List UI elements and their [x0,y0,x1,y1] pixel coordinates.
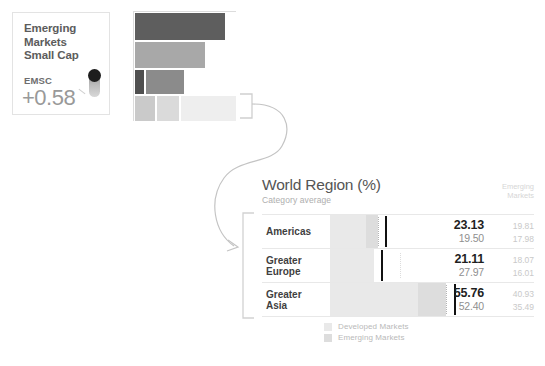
fund-gauge-tick-icon [79,89,86,95]
value-emerging-primary: 18.07 [484,254,534,266]
region-label-line-2: Europe [266,266,300,277]
bar-developed-markets [330,249,374,282]
region-rows-container: Americas23.1319.8119.5017.98GreaterEurop… [262,214,534,317]
treemap-cell [134,69,145,95]
legend-swatch-icon [324,334,332,342]
value-secondary: 27.97 [422,266,484,278]
treemap-cell [185,69,237,95]
value-emerging-secondary: 35.49 [484,301,534,313]
region-label-line-1: Greater [266,254,302,265]
flow-arrowhead-icon [227,240,238,251]
value-emerging-primary: 40.93 [484,288,534,300]
region-label: GreaterEurope [266,254,324,277]
legend-label: Emerging Markets [338,333,405,342]
bar-emerging-markets [366,215,378,248]
value-secondary: 52.40 [422,300,484,312]
source-bracket [240,94,252,118]
fund-summary-card[interactable]: Emerging Markets Small Cap EMSC +0.58 [12,12,110,115]
emerging-markets-column-header-line-2: Markets [486,191,534,200]
treemap-cell [226,12,237,41]
world-region-panel: World Region (%) Category average Emergi… [262,176,534,341]
treemap-cell [145,69,185,95]
chart-legend: Developed MarketsEmerging Markets [324,321,409,343]
emerging-markets-column-header-line-1: Emerging [486,182,534,191]
legend-item[interactable]: Emerging Markets [324,332,409,343]
fund-change-value: +0.58 [22,85,75,111]
region-label: GreaterAsia [266,288,324,311]
treemap-cell [156,95,180,122]
treemap-cell [134,41,206,69]
value-secondary: 19.50 [422,232,484,244]
region-label: Americas [266,226,324,238]
region-values: 21.1118.0727.9716.01 [416,253,534,279]
fund-card-title-line-3: Small Cap [24,49,79,61]
table-row[interactable]: Americas23.1319.8119.5017.98 [262,215,534,249]
table-row[interactable]: GreaterEurope21.1118.0727.9716.01 [262,249,534,283]
value-emerging-secondary: 16.01 [484,267,534,279]
bar-value-marker [381,250,383,281]
fund-card-title-line-2: Markets [24,36,67,48]
value-primary: 23.13 [422,219,484,231]
region-label-line-2: Asia [266,300,287,311]
value-primary: 55.76 [422,287,484,299]
fund-card-title-line-1: Emerging [24,22,76,34]
value-primary: 21.11 [422,253,484,265]
bar-reference-line [400,253,401,278]
table-row[interactable]: GreaterAsia55.7640.9352.4035.49 [262,283,534,317]
region-label-line-1: Greater [266,288,302,299]
treemap-cell [180,95,237,122]
target-bracket [243,213,254,318]
emerging-markets-column-header: Emerging Markets [486,182,534,200]
portfolio-treemap-thumbnail[interactable] [133,11,236,121]
region-label-line-1: Americas [266,226,311,237]
region-values: 55.7640.9352.4035.49 [416,287,534,313]
treemap-cell [134,95,156,122]
region-values: 23.1319.8119.5017.98 [416,219,534,245]
fund-gauge-dot-icon [88,69,101,82]
bar-developed-markets [330,215,366,248]
legend-item[interactable]: Developed Markets [324,321,409,332]
fund-card-title: Emerging Markets Small Cap [24,22,102,63]
legend-label: Developed Markets [338,322,409,331]
treemap-cell [206,41,237,69]
value-emerging-primary: 19.81 [484,220,534,232]
bar-developed-markets [330,283,418,316]
bar-segment-divider [378,217,379,246]
treemap-cell [134,12,226,41]
value-emerging-secondary: 17.98 [484,233,534,245]
legend-swatch-icon [324,323,332,331]
bar-value-marker [385,216,387,247]
